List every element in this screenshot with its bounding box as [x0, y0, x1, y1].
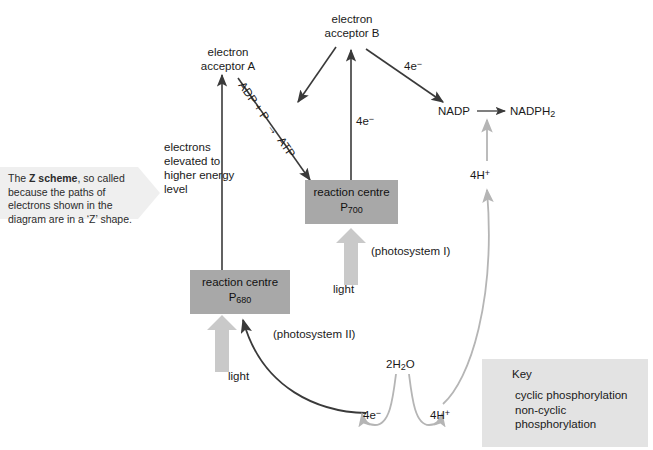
node-nadph2: NADPH2 [510, 104, 555, 121]
key-title: Key [512, 368, 532, 380]
reaction-centre-p680-title: reaction centre [202, 275, 278, 290]
annotation-callout: The Z scheme, so called because the path… [0, 159, 165, 227]
four-e-water-superscript: − [376, 408, 381, 418]
label-photosystem-1: (photosystem I) [371, 244, 450, 258]
arrow-acceptor-b-to-p700 [298, 47, 336, 102]
four-e-p700-text: 4e [356, 115, 369, 127]
light-arrow-photosystem-2 [207, 315, 237, 372]
p680-subscript: 680 [236, 296, 251, 306]
label-4h-from-water: 4H+ [430, 406, 450, 422]
label-4e-from-water: 4e− [363, 406, 381, 422]
label-4h-to-nadph2: 4H+ [470, 166, 490, 182]
label-photosystem-2: (photosystem II) [273, 327, 355, 341]
annotation-text: The Z scheme, so called because the path… [8, 172, 148, 226]
key-entry-cyclic-label: cyclic phosphorylation [515, 389, 628, 403]
four-h-upper-superscript: + [485, 168, 490, 178]
annotation-lead: The [8, 172, 29, 184]
four-h-lower-superscript: + [445, 408, 450, 418]
annotation-bold: Z scheme [29, 172, 77, 184]
p700-letter: P [340, 201, 348, 213]
four-h-upper-text: 4H [470, 169, 485, 181]
key-legend: Key cyclic phosphorylation non-cyclic ph… [482, 359, 648, 447]
water-tail: O [406, 358, 415, 370]
node-water: 2H2O [386, 357, 415, 374]
node-electron-acceptor-b: electron acceptor B [320, 12, 384, 40]
four-h-lower-text: 4H [430, 409, 445, 421]
label-4e-p700-to-acceptor-b: 4e− [356, 112, 374, 128]
node-nadp: NADP [438, 104, 470, 118]
nadph2-subscript: 2 [550, 109, 555, 119]
four-e-water-text: 4e [363, 409, 376, 421]
reaction-centre-p700-title: reaction centre [313, 185, 389, 200]
four-e-p700-superscript: − [369, 114, 374, 124]
reaction-centre-p680-id: P680 [229, 290, 252, 308]
label-4e-acceptor-b-to-nadp: 4e− [404, 57, 422, 73]
nadph2-text: NADPH [510, 105, 550, 117]
node-electron-acceptor-a: electron acceptor A [196, 45, 260, 73]
z-scheme-diagram: The Z scheme, so called because the path… [0, 0, 653, 450]
p700-subscript: 700 [348, 206, 363, 216]
four-e-b-nadp-superscript: − [417, 59, 422, 69]
reaction-centre-p700: reaction centre P700 [305, 180, 398, 224]
water-text: 2H [386, 358, 401, 370]
key-entry-non-cyclic-label: non-cyclic phosphorylation [515, 404, 648, 431]
reaction-centre-p680: reaction centre P680 [190, 270, 290, 314]
label-light-photosystem-1: light [333, 282, 354, 296]
label-light-photosystem-2: light [228, 369, 249, 383]
light-arrow-photosystem-1 [336, 228, 366, 285]
label-electrons-elevated: electrons elevated to higher energy leve… [164, 140, 234, 196]
four-e-b-nadp-text: 4e [404, 60, 417, 72]
reaction-centre-p700-id: P700 [340, 200, 363, 218]
